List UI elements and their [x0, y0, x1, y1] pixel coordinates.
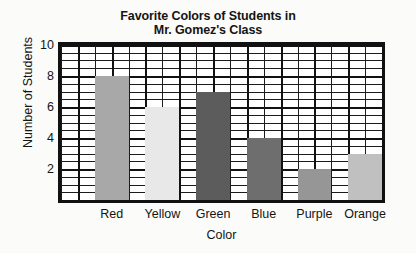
- gridline-major-horizontal: [61, 200, 382, 202]
- chart-title-line-2: Mr. Gomez's Class: [0, 23, 416, 37]
- bar-green: [196, 92, 230, 201]
- chart-page: Favorite Colors of Students in Mr. Gomez…: [0, 0, 416, 253]
- bar-red: [95, 76, 129, 200]
- gridline-major-horizontal: [61, 45, 382, 47]
- bar-yellow: [145, 107, 179, 200]
- x-tick-orange: Orange: [325, 207, 405, 221]
- plot-grid-and-bars: [61, 45, 382, 200]
- gridline-minor-vertical: [61, 45, 62, 200]
- plot-area: [58, 42, 385, 203]
- gridline-major-vertical: [281, 45, 283, 200]
- x-axis-tick-labels: RedYellowGreenBluePurpleOrange: [58, 207, 385, 223]
- gridline-minor-horizontal: [61, 68, 382, 69]
- bar-orange: [348, 154, 382, 201]
- gridline-major-vertical: [382, 45, 384, 200]
- gridline-minor-vertical: [129, 45, 130, 200]
- gridline-minor-vertical: [230, 45, 231, 200]
- chart-title-line-1: Favorite Colors of Students in: [0, 9, 416, 23]
- bar-blue: [247, 138, 281, 200]
- x-axis-label: Color: [58, 228, 385, 242]
- chart-title: Favorite Colors of Students in Mr. Gomez…: [0, 9, 416, 37]
- y-axis-label: Number of Students: [22, 18, 35, 168]
- gridline-major-vertical: [78, 45, 80, 200]
- gridline-minor-horizontal: [61, 60, 382, 61]
- gridline-major-vertical: [179, 45, 181, 200]
- gridline-minor-horizontal: [61, 53, 382, 54]
- bar-purple: [298, 169, 332, 200]
